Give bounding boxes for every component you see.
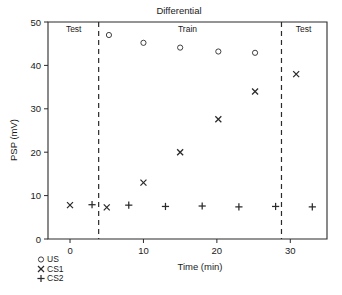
y-tick-label: 40 (30, 60, 41, 71)
phase-label: Test (296, 24, 312, 34)
differential-scatter-plot: Differential 0102030 01020304050 TestTra… (0, 0, 342, 295)
y-tick-label: 10 (30, 190, 41, 201)
y-tick-label: 30 (30, 103, 41, 114)
legend-label-cs1: CS1 (47, 264, 64, 274)
legend-marker-plus (37, 275, 44, 282)
chart-legend: USCS1CS2 (37, 254, 63, 283)
datapoint-circle (106, 32, 111, 37)
datapoint-plus (199, 202, 206, 209)
data-series-markers (67, 32, 316, 210)
x-axis-label: Time (min) (177, 261, 222, 272)
datapoint-plus (272, 203, 279, 210)
datapoint-x (293, 71, 299, 77)
phase-divider-lines (99, 22, 282, 239)
datapoint-circle (252, 50, 257, 55)
phase-labels: TestTrainTest (66, 24, 312, 34)
datapoint-plus (88, 201, 95, 208)
datapoint-plus (125, 202, 132, 209)
datapoint-x (252, 88, 258, 94)
datapoint-plus (162, 203, 169, 210)
datapoint-plus (309, 203, 316, 210)
plot-axes: 0102030 01020304050 (30, 17, 327, 257)
datapoint-x (140, 180, 146, 186)
datapoint-circle (178, 45, 183, 50)
x-tick-label: 10 (138, 245, 149, 256)
chart-figure: Differential 0102030 01020304050 TestTra… (0, 0, 342, 295)
y-axis-ticks: 01020304050 (30, 17, 48, 245)
series-cs1 (67, 71, 299, 210)
x-tick-label: 30 (285, 245, 296, 256)
y-tick-label: 50 (30, 17, 41, 28)
series-us (106, 32, 257, 55)
y-axis-label: PSP (mV) (8, 119, 19, 161)
x-axis-ticks: 0102030 (67, 239, 295, 256)
phase-label: Train (178, 24, 197, 34)
phase-label: Test (66, 24, 82, 34)
legend-label-cs2: CS2 (47, 273, 64, 283)
chart-title: Differential (156, 5, 201, 16)
legend-marker-circle (38, 257, 43, 262)
datapoint-x (215, 116, 221, 122)
legend-marker-x (38, 266, 44, 272)
x-tick-label: 20 (212, 245, 223, 256)
datapoint-x (104, 204, 110, 210)
datapoint-x (177, 149, 183, 155)
datapoint-circle (141, 40, 146, 45)
datapoint-plus (235, 203, 242, 210)
datapoint-circle (216, 49, 221, 54)
legend-label-us: US (47, 254, 59, 264)
y-tick-label: 20 (30, 147, 41, 158)
datapoint-x (67, 202, 73, 208)
x-tick-label: 0 (67, 245, 72, 256)
plot-frame (48, 22, 327, 239)
y-tick-label: 0 (36, 234, 41, 245)
